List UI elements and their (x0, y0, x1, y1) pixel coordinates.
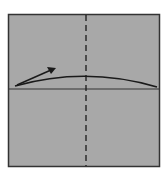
paper-square (9, 15, 160, 167)
origami-diagram (0, 0, 165, 175)
